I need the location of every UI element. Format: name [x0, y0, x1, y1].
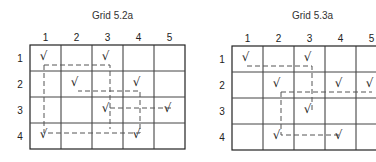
checkmark-icon: √ [133, 75, 141, 89]
column-label: 4 [136, 32, 142, 43]
checkmark-icon: √ [304, 102, 312, 116]
checkmark-icon: √ [102, 49, 110, 63]
row-label: 1 [219, 54, 225, 65]
row-label: 3 [219, 106, 225, 117]
column-label: 3 [307, 33, 313, 44]
checkmark-icon: √ [164, 101, 172, 115]
row-label: 4 [219, 132, 225, 143]
checkmark-icon: √ [273, 76, 281, 90]
row-label: 2 [219, 80, 225, 91]
checkmark-icon: √ [133, 127, 141, 141]
row-label: 3 [17, 105, 23, 116]
row-label: 2 [17, 79, 23, 90]
column-label: 3 [105, 32, 111, 43]
row-label: 1 [17, 53, 23, 64]
column-label: 1 [43, 32, 49, 43]
column-label: 2 [276, 33, 282, 44]
grid-5-2a: 123451234√√√√√√√√ [0, 0, 190, 162]
checkmark-icon: √ [304, 50, 312, 64]
column-label: 5 [167, 32, 173, 43]
checkmark-icon: √ [242, 50, 250, 64]
column-label: 4 [338, 33, 344, 44]
grid-5-3a-panel: Grid 5.3a 123451234√√√√√√√√ [186, 0, 376, 162]
checkmark-icon: √ [335, 128, 343, 142]
checkmark-icon: √ [40, 49, 48, 63]
checkmark-icon: √ [40, 127, 48, 141]
column-label: 1 [245, 33, 251, 44]
row-label: 4 [17, 131, 23, 142]
column-label: 2 [74, 32, 80, 43]
checkmark-icon: √ [366, 76, 374, 90]
checkmark-icon: √ [71, 75, 79, 89]
checkmark-icon: √ [102, 101, 110, 115]
grid-5-3a: 123451234√√√√√√√√ [186, 0, 376, 162]
grid-5-2a-panel: Grid 5.2a 123451234√√√√√√√√ [0, 0, 190, 162]
checkmark-icon: √ [273, 128, 281, 142]
column-label: 5 [369, 33, 375, 44]
checkmark-icon: √ [335, 76, 343, 90]
